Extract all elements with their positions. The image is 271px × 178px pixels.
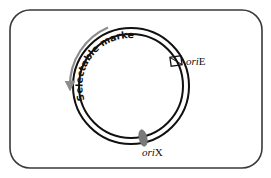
plasmid-diagram: Selectable marker oriE oriX <box>0 0 271 178</box>
diagram-svg: Selectable marker oriE oriX <box>0 0 271 178</box>
orie-label: oriE <box>186 55 206 67</box>
orix-label: oriX <box>142 146 163 158</box>
